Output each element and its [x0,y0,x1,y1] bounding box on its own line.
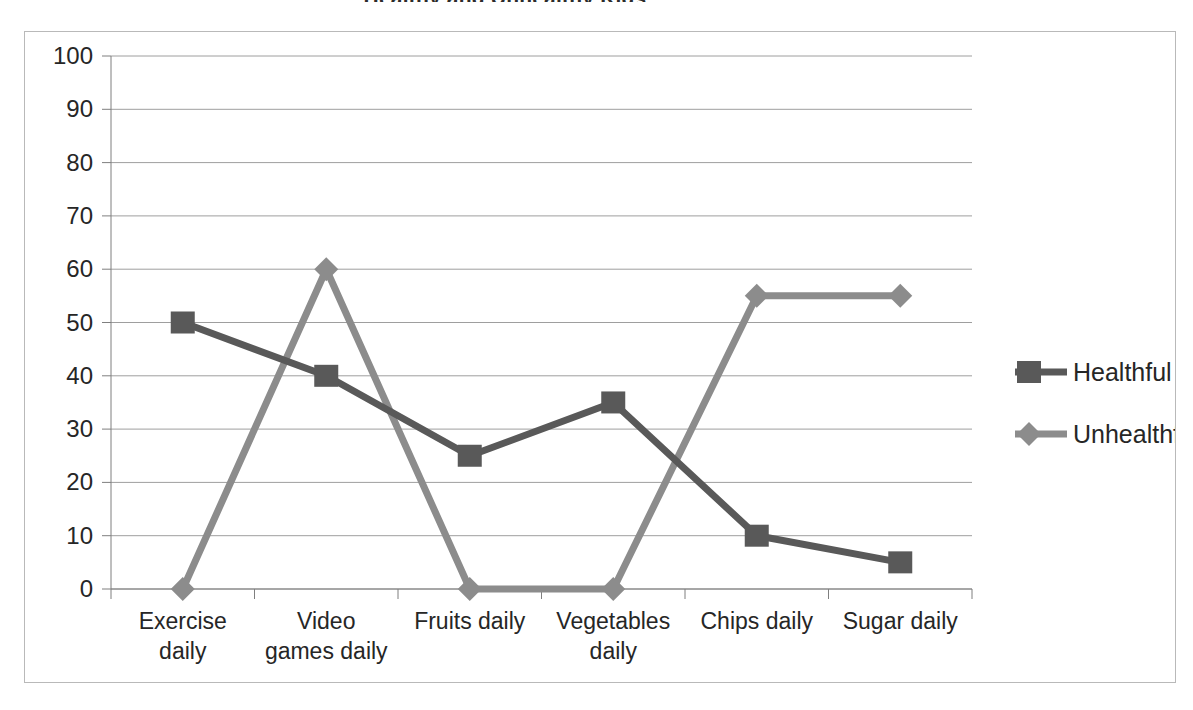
x-axis-category-label: Fruits daily [414,608,526,634]
x-axis-category-label: Chips daily [701,608,814,634]
data-point-marker [314,257,338,281]
y-axis-tick-label: 20 [66,468,93,495]
series-line [183,323,901,563]
legend-label: Unhealthful [1073,420,1175,448]
chart-legend: HealthfulUnhealthful [1015,358,1175,448]
x-axis-category-label: Exercisedaily [139,608,227,664]
x-axis-category-label: Videogames daily [265,608,388,664]
y-axis-tick-label: 0 [80,575,93,602]
data-point-marker [314,365,338,387]
gridlines [111,56,972,589]
data-point-marker [458,577,482,601]
y-axis-tick-label: 70 [66,202,93,229]
data-point-marker [745,525,769,547]
data-point-marker [171,577,195,601]
legend-label: Healthful [1073,358,1172,386]
series-healthful [171,312,913,574]
legend-item-healthful[interactable]: Healthful [1015,358,1172,386]
legend-item-unhealthful[interactable]: Unhealthful [1015,420,1175,448]
y-axis-tick-labels: 0102030405060708090100 [53,42,93,602]
data-point-marker [745,284,769,308]
chart-container: Healthy and Unhealthy Kids 0102030405060… [0,0,1193,710]
line-chart-plot: 0102030405060708090100 ExercisedailyVide… [25,32,1175,682]
y-axis-tick-label: 80 [66,149,93,176]
data-point-marker [171,312,195,334]
chart-frame: 0102030405060708090100 ExercisedailyVide… [24,31,1176,683]
data-point-marker [888,284,912,308]
legend-marker [1017,361,1041,383]
x-axis-category-label: Sugar daily [843,608,959,634]
chart-title: Healthy and Unhealthy Kids [0,0,1010,2]
legend-marker [1017,422,1041,446]
y-axis-tick-label: 10 [66,522,93,549]
y-axis [102,56,111,589]
y-axis-tick-label: 30 [66,415,93,442]
data-point-marker [601,391,625,413]
x-axis-category-label: Vegetablesdaily [556,608,670,664]
y-axis-tick-label: 60 [66,255,93,282]
data-point-marker [601,577,625,601]
data-point-marker [888,551,912,573]
x-axis-category-labels: ExercisedailyVideogames dailyFruits dail… [139,608,959,664]
y-axis-tick-label: 100 [53,42,93,69]
y-axis-tick-label: 90 [66,95,93,122]
data-point-marker [458,445,482,467]
y-axis-tick-label: 50 [66,309,93,336]
y-axis-tick-label: 40 [66,362,93,389]
